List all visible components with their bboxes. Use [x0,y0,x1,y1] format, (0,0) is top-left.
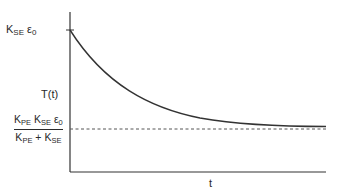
asymptote-numerator: KPE KSE ε0 [14,114,63,130]
y-label-asymptote: KPE KSE ε0 KPE + KSE [14,114,63,144]
y-label-initial: KSE ε0 [6,24,36,37]
decay-curve [70,30,326,127]
x-axis-title: t [209,178,212,189]
y-axis-title: T(t) [41,89,58,100]
asymptote-denominator: KPE + KSE [14,130,63,145]
